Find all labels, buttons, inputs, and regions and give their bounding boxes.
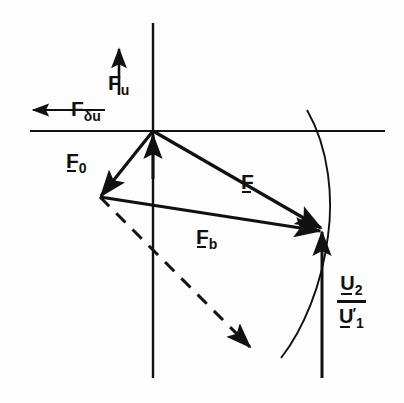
label-voltage-ratio-denominator: U′1 [337,305,366,331]
label-f: F [241,171,254,192]
label-f-0-subscript: 0 [79,160,87,176]
fraction-bar [337,300,366,303]
label-voltage-ratio-numerator: U2 [337,272,366,298]
label-f-0-symbol: F [66,150,79,171]
f-0-vector [101,131,153,196]
force-vector-diagram: Fu Fδu F0 F Fb U2 U′1 [0,0,404,403]
label-f-u-subscript: u [121,82,130,98]
dashed-locus-arrow [100,197,250,347]
label-voltage-ratio: U2 U′1 [337,272,366,331]
f-vector [153,131,321,228]
label-f-delta-u-subscript: δu [84,108,101,124]
label-voltage-ratio-denominator-subscript: 1 [356,315,364,331]
diagram-canvas [0,0,404,403]
label-voltage-ratio-numerator-symbol: U [340,272,354,294]
label-f-0: F0 [66,150,87,175]
label-f-b-symbol: F [196,226,209,247]
label-voltage-ratio-denominator-symbol: U [339,305,353,327]
label-f-u-symbol: F [108,71,121,94]
label-f-b-subscript: b [209,236,218,252]
label-f-b: Fb [196,226,217,251]
label-f-u: Fu [108,72,129,97]
label-f-delta-u: Fδu [71,98,101,123]
label-voltage-ratio-numerator-subscript: 2 [355,282,363,298]
label-f-delta-u-symbol: F [71,97,84,120]
label-f-symbol: F [241,171,254,192]
